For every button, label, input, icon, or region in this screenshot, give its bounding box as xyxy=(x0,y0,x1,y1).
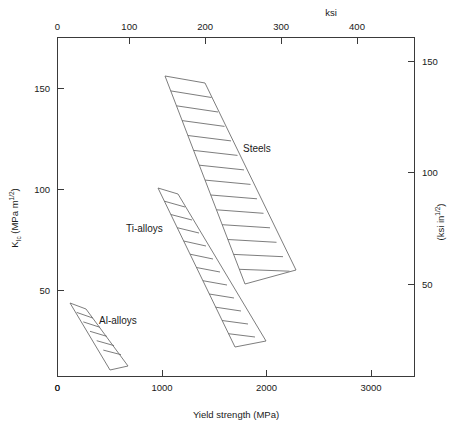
left-axis-title-mid: (MPa m xyxy=(9,200,20,236)
svg-text:(ksi in1/2): (ksi in1/2) xyxy=(434,203,446,240)
top-axis-tick-100: 100 xyxy=(121,21,137,32)
top-axis-tick-400: 400 xyxy=(349,21,365,32)
top-axis-title: ksi xyxy=(325,7,337,18)
left-axis: 150 100 50 0 KIc (MPa m1/2) xyxy=(8,83,64,393)
top-axis: 0 100 200 300 400 ksi xyxy=(55,7,365,44)
left-axis-tick-100: 100 xyxy=(34,184,50,195)
right-axis-tick-100: 100 xyxy=(422,167,438,178)
fracture-toughness-chart: 0 100 200 300 400 ksi 0 1000 2000 3000 Y… xyxy=(0,0,468,437)
bottom-axis: 0 1000 2000 3000 Yield strength (MPa) xyxy=(55,370,382,421)
top-axis-tick-300: 300 xyxy=(273,21,289,32)
right-axis-title-group: (ksi in1/2) xyxy=(434,203,446,240)
right-axis-title-sup: 1/2 xyxy=(434,206,441,215)
chart-canvas: 0 100 200 300 400 ksi 0 1000 2000 3000 Y… xyxy=(0,0,468,437)
left-axis-title-sup: 1/2 xyxy=(8,191,15,200)
left-axis-tick-150: 150 xyxy=(34,83,50,94)
right-axis-title-end: ) xyxy=(435,203,446,206)
left-axis-tick-0: 0 xyxy=(55,382,60,393)
bottom-axis-title: Yield strength (MPa) xyxy=(193,409,279,420)
bottom-axis-tick-1000: 1000 xyxy=(151,382,172,393)
bottom-axis-tick-2000: 2000 xyxy=(256,382,277,393)
band-al-alloys: Al-alloys xyxy=(70,303,137,370)
band-label-ti-alloys: Ti-alloys xyxy=(126,223,163,234)
right-axis: 150 100 50 (ksi in1/2) xyxy=(408,56,446,290)
top-axis-tick-200: 200 xyxy=(197,21,213,32)
left-axis-title-group: KIc (MPa m1/2) xyxy=(8,188,22,248)
band-label-steels: Steels xyxy=(243,143,271,154)
right-axis-title-main: (ksi in xyxy=(435,216,446,241)
right-axis-tick-50: 50 xyxy=(422,279,433,290)
left-axis-title-end: ) xyxy=(9,188,20,191)
band-steels: Steels xyxy=(165,76,296,284)
band-label-al-alloys: Al-alloys xyxy=(99,315,137,326)
top-axis-tick-0: 0 xyxy=(55,21,60,32)
left-axis-tick-50: 50 xyxy=(39,285,50,296)
right-axis-tick-150: 150 xyxy=(422,56,438,67)
svg-text:KIc (MPa m1/2): KIc (MPa m1/2) xyxy=(8,188,22,248)
bottom-axis-tick-3000: 3000 xyxy=(360,382,381,393)
